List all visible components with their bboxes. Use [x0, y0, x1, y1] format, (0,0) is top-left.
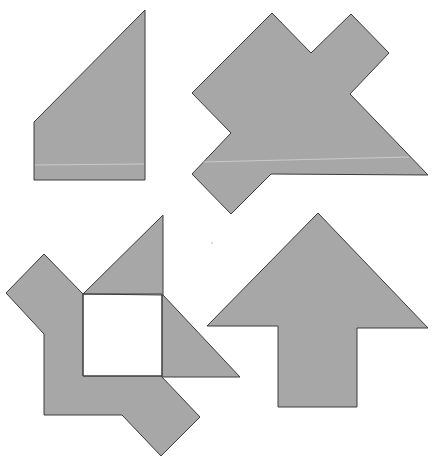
speck-dot [211, 242, 213, 244]
tangram-canvas [0, 0, 434, 461]
square-hole [83, 294, 162, 376]
